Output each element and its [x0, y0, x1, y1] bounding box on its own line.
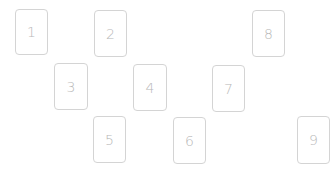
card-9[interactable]: 9 — [297, 116, 330, 164]
card-label: 9 — [309, 132, 318, 148]
card-2[interactable]: 2 — [94, 10, 127, 57]
card-6[interactable]: 6 — [173, 117, 206, 164]
card-1[interactable]: 1 — [15, 9, 48, 55]
card-label: 4 — [146, 80, 155, 96]
card-label: 1 — [27, 24, 36, 40]
card-label: 7 — [224, 81, 233, 97]
card-5[interactable]: 5 — [93, 116, 126, 163]
card-label: 2 — [106, 26, 115, 42]
card-8[interactable]: 8 — [252, 10, 285, 57]
card-label: 8 — [264, 26, 273, 42]
card-label: 5 — [105, 132, 114, 148]
card-label: 3 — [67, 79, 76, 95]
card-3[interactable]: 3 — [54, 63, 88, 110]
card-7[interactable]: 7 — [212, 65, 245, 112]
card-4[interactable]: 4 — [133, 64, 167, 111]
card-label: 6 — [185, 133, 194, 149]
